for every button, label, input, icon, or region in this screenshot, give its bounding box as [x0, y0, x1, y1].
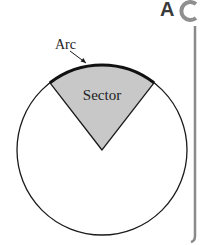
page-side-bar: [191, 26, 195, 242]
sector-arc-diagram: A Arc Sector: [0, 0, 206, 245]
diagram-canvas: A Arc Sector: [0, 0, 206, 245]
arrow-head-icon: [81, 58, 87, 63]
arc-label: Arc: [55, 37, 76, 52]
logo-letter-c: [181, 2, 196, 20]
ac-logo-icon: A: [160, 0, 196, 20]
sector-label: Sector: [83, 87, 121, 103]
logo-letter-a: A: [160, 0, 174, 20]
